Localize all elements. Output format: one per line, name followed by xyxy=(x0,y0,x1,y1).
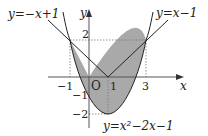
function-graph-diagram: y=−x+1 y=x−1 y=x²−2x−1 x y O −1 1 3 2 −1… xyxy=(0,0,208,136)
tick-x-1: 1 xyxy=(110,80,117,93)
label-line-positive: y=x−1 xyxy=(155,6,197,20)
y-axis-label: y xyxy=(79,6,87,20)
label-parabola: y=x²−2x−1 xyxy=(102,119,174,133)
y-axis-arrow-icon xyxy=(86,9,92,17)
tick-y-neg2: −2 xyxy=(72,108,88,121)
tick-x-3: 3 xyxy=(142,80,149,93)
tick-y-neg1: −1 xyxy=(72,89,88,102)
tick-y-2: 2 xyxy=(82,28,89,41)
tick-x-neg1: −1 xyxy=(57,80,73,93)
label-line-negative: y=−x+1 xyxy=(7,7,59,21)
origin-label: O xyxy=(91,79,101,93)
x-axis-label: x xyxy=(180,79,187,93)
